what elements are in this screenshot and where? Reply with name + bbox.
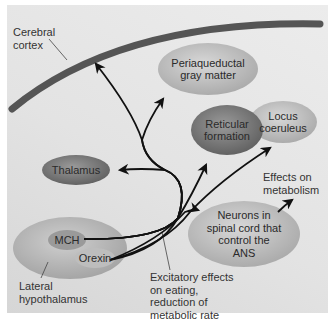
label-excitatory-effects: Excitatory effects on eating, reduction …	[150, 271, 234, 320]
node-reticular-label: Reticular formation	[191, 105, 263, 155]
node-neurons-label: Neurons in spinal cord that control the …	[188, 201, 300, 267]
label-lateral-hypothalamus: Lateral hypothalamus	[19, 280, 88, 305]
node-periaqueductal-label: Periaqueductal gray matter	[158, 43, 258, 95]
node-mch-label: MCH	[48, 230, 86, 250]
label-cerebral-cortex: Cerebral cortex	[13, 26, 55, 51]
node-thalamus-label: Thalamus	[42, 155, 110, 185]
node-orexin-label: Orexin	[75, 248, 115, 268]
label-effects-on-metabolism: Effects on metabolism	[263, 171, 319, 196]
